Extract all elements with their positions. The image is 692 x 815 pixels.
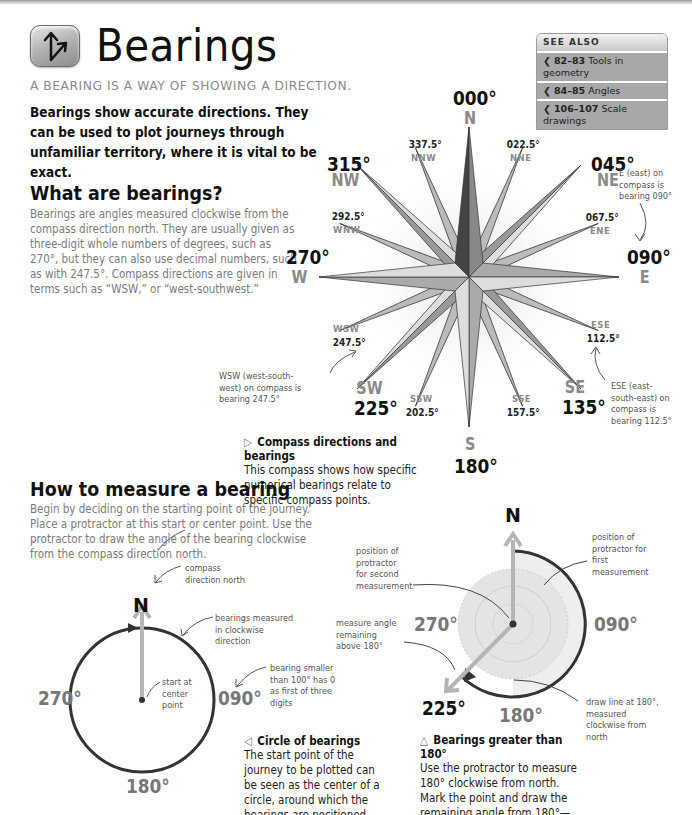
compass-bearing-135: 135° bbox=[562, 395, 606, 419]
compass-bearing-090: 090° bbox=[627, 245, 671, 269]
section-body-how-to-measure: Begin by deciding on the starting point … bbox=[30, 502, 318, 562]
compass-dir-ese: ESE bbox=[591, 320, 610, 330]
pointer-left-icon: ◁ bbox=[244, 734, 252, 748]
compass-bearing-180: 180° bbox=[454, 454, 498, 478]
compass-bearing-292-5: 292.5° bbox=[332, 211, 365, 222]
protractor-caption-title: Bearings greater than 180° bbox=[420, 733, 562, 761]
compass-dir-nnw: NNW bbox=[411, 153, 436, 163]
compass-dir-sse: SSE bbox=[512, 394, 531, 404]
circle-label-180: 180° bbox=[126, 774, 170, 798]
note-clockwise: bearings measured in clockwise direction bbox=[215, 613, 296, 648]
note-center-point: start at center point bbox=[162, 677, 198, 712]
protractor-caption: △Bearings greater than 180° Use the prot… bbox=[420, 733, 578, 815]
note-remaining-angle: measure angle remaining above 180° bbox=[336, 618, 399, 653]
note-second-position: position of protractor for second measur… bbox=[356, 546, 410, 592]
note-first-position: position of protractor for first measure… bbox=[592, 532, 664, 578]
pointer-right-icon: ▷ bbox=[244, 435, 252, 449]
compass-bearing-157-5: 157.5° bbox=[507, 407, 540, 418]
compass-dir-wsw: WSW bbox=[333, 324, 359, 334]
compass-dir-nne: NNE bbox=[510, 153, 532, 163]
compass-dir-n: N bbox=[464, 108, 476, 128]
section-heading-how-to-measure: How to measure a bearing bbox=[30, 478, 290, 500]
compass-bearing-270: 270° bbox=[286, 245, 330, 269]
protractor-label-225: 225° bbox=[422, 696, 466, 720]
circle-label-270: 270° bbox=[38, 686, 82, 710]
protractor-label-090: 090° bbox=[594, 612, 638, 636]
note-wsw-bearing: WSW (west-south-west) on compass is bear… bbox=[219, 371, 305, 406]
circle-label-090: 090° bbox=[218, 686, 262, 710]
note-compass-north: compass direction north bbox=[185, 563, 257, 586]
compass-dir-nw: NW bbox=[331, 170, 359, 190]
compass-bearing-067-5: 067.5° bbox=[586, 212, 619, 223]
protractor-caption-text: Use the protractor to measure 180° clock… bbox=[420, 761, 578, 815]
note-east-bearing: E (east) on compass is bearing 090° bbox=[619, 168, 673, 203]
compass-dir-s: S bbox=[465, 434, 475, 454]
compass-bearing-000: 000° bbox=[453, 86, 497, 110]
compass-dir-wnw: WNW bbox=[333, 225, 360, 235]
circle-label-n: N bbox=[133, 594, 149, 616]
protractor-graphic bbox=[446, 534, 586, 697]
circle-caption-text: The start point of the journey to be plo… bbox=[244, 748, 388, 815]
compass-bearing-225: 225° bbox=[354, 396, 398, 420]
compass-bearing-022-5: 022.5° bbox=[507, 139, 540, 150]
note-smaller-bearing: bearing smaller than 100° has 0 as first… bbox=[270, 663, 338, 709]
compass-bearing-202-5: 202.5° bbox=[406, 407, 439, 418]
compass-dir-ssw: SSW bbox=[410, 394, 433, 404]
protractor-label-270: 270° bbox=[414, 612, 458, 636]
pointer-up-icon: △ bbox=[420, 733, 428, 747]
compass-bearing-247-5: 247.5° bbox=[333, 337, 366, 348]
compass-dir-e: E bbox=[640, 267, 650, 287]
protractor-label-n: N bbox=[505, 504, 521, 526]
compass-dir-ne: NE bbox=[597, 170, 619, 190]
compass-bearing-112-5: 112.5° bbox=[587, 333, 620, 344]
protractor-label-180: 180° bbox=[499, 703, 543, 727]
compass-dir-ene: ENE bbox=[590, 226, 610, 236]
compass-dir-se: SE bbox=[565, 377, 585, 397]
compass-dir-w: W bbox=[291, 267, 307, 287]
note-draw-line: draw line at 180°, measured clockwise fr… bbox=[586, 697, 663, 743]
circle-caption-title: Circle of bearings bbox=[257, 734, 360, 748]
compass-bearing-337-5: 337.5° bbox=[409, 139, 442, 150]
circle-caption: ◁Circle of bearings The start point of t… bbox=[244, 734, 388, 815]
compass-caption-title: Compass directions and bearings bbox=[244, 435, 397, 463]
compass-dir-sw: SW bbox=[356, 378, 382, 398]
note-ese-bearing: ESE (east-south-east) on compass is bear… bbox=[611, 381, 676, 427]
